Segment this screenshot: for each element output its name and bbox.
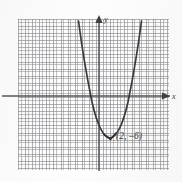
x-axis-label: x [172, 93, 176, 101]
vertex-tick-mark [104, 133, 116, 140]
coordinate-plane [18, 19, 169, 170]
vertex-coordinate-label: (2, –6) [116, 131, 142, 141]
y-axis-label: y [104, 16, 108, 24]
graph-figure: y x (2, –6) [0, 0, 182, 182]
vertex-marker-layer [18, 19, 169, 170]
